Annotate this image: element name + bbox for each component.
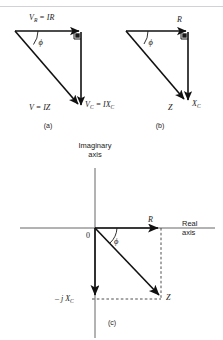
panel-b-phi-arc: [144, 31, 148, 44]
panel-c-imaginary-axis-label-line2: axis: [88, 150, 102, 159]
panel-a-v-label: V = IZ: [29, 103, 51, 112]
panel-c-z-vector: [95, 228, 159, 295]
panel-c-r-label: R: [147, 215, 153, 224]
panel-a: VR = IR ϕ V = IZ VC = IXC (a): [15, 13, 115, 130]
panel-b-xc-label: XC: [191, 99, 201, 109]
panel-b-r-label: R: [176, 15, 182, 24]
figure-canvas: VR = IR ϕ V = IZ VC = IXC (a) R ϕ Z XC: [0, 0, 223, 340]
panel-b-z-label: Z: [168, 103, 173, 112]
panel-c: Imaginary axis Real axis 0 R ϕ – j XC Z …: [20, 141, 215, 338]
panel-c-real-axis-label-line1: Real: [182, 219, 198, 228]
panel-b-right-angle-fill: [182, 33, 186, 37]
panel-b-z-vector: [126, 31, 184, 99]
figure-svg: VR = IR ϕ V = IZ VC = IXC (a) R ϕ Z XC: [0, 0, 223, 340]
panel-a-vr-label: VR = IR: [29, 13, 54, 23]
panel-c-imaginary-axis-label-line1: Imaginary: [79, 141, 112, 150]
panel-c-caption: (c): [108, 319, 116, 327]
panel-a-right-angle-fill: [75, 33, 79, 37]
panel-c-z-label: Z: [166, 293, 171, 302]
panel-c-phi-label: ϕ: [114, 236, 119, 246]
panel-b-phi-label: ϕ: [149, 37, 154, 47]
panel-c-real-axis-label-line2: axis: [182, 228, 196, 237]
panel-c-jxc-label: – j XC: [54, 294, 74, 304]
panel-a-phi-arc: [34, 31, 39, 45]
panel-a-caption: (a): [44, 122, 53, 130]
panel-a-v-vector: [15, 31, 78, 104]
panel-a-phi-label: ϕ: [39, 37, 44, 47]
panel-c-origin-label: 0: [86, 231, 90, 240]
panel-b-caption: (b): [156, 122, 165, 130]
panel-a-vc-label: VC = IXC: [85, 100, 115, 110]
panel-b: R ϕ Z XC (b): [126, 15, 201, 130]
